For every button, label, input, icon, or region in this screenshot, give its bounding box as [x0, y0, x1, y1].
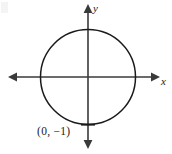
x-axis-left-arrowhead: [8, 73, 17, 82]
x-axis-label: x: [161, 76, 166, 87]
y-axis-bottom-arrowhead: [84, 140, 93, 149]
y-axis-top-arrowhead: [84, 4, 93, 13]
point-coordinate-label: (0, −1): [37, 126, 71, 138]
circle-graph-figure: y x (0, −1): [0, 0, 172, 154]
x-axis-right-arrowhead: [151, 73, 160, 82]
coordinate-plane-svg: [0, 0, 172, 154]
y-axis-label: y: [93, 3, 98, 14]
